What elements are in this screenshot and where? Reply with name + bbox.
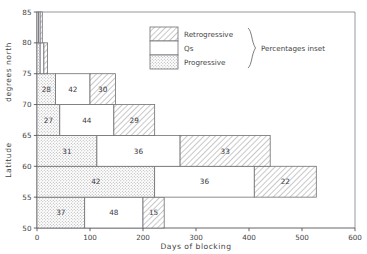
bar-value-label: 36 [200, 177, 210, 186]
x-tick-label: 300 [189, 233, 203, 242]
y-tick-label: 55 [22, 193, 31, 202]
bar-band: 313633 [37, 135, 270, 166]
y-axis-title: Latitude [4, 142, 13, 177]
legend-note: Percentages inset [261, 44, 325, 53]
x-tick-label: 100 [83, 233, 97, 242]
bar-value-label: 36 [134, 147, 144, 156]
bar-value-label: 27 [44, 116, 54, 125]
y-tick-label: 85 [22, 8, 31, 17]
bar-band: 274429 [37, 105, 155, 136]
y-axis-subtitle: degrees north [4, 42, 13, 102]
bar-value-label: 29 [130, 116, 140, 125]
chart-legend: RetrogressiveQsProgressivePercentages in… [150, 27, 325, 69]
legend-swatch [150, 41, 178, 55]
bar-value-label: 48 [109, 208, 119, 217]
bar-band: 374815 [37, 197, 164, 228]
bar-value-label: 37 [56, 208, 66, 217]
bar-value-label: 28 [42, 85, 52, 94]
y-tick-label: 75 [22, 69, 31, 78]
bar-value-label: 22 [281, 177, 290, 186]
bar-value-label: 44 [82, 116, 92, 125]
legend-swatch [150, 27, 178, 41]
y-tick-label: 70 [22, 100, 32, 109]
bar-band: 284230 [37, 74, 115, 105]
x-tick-label: 500 [295, 233, 309, 242]
bar-band [37, 12, 42, 43]
bar-value-label: 31 [62, 147, 71, 156]
legend-swatch [150, 55, 178, 69]
bar-value-label: 33 [221, 147, 231, 156]
x-tick-label: 600 [348, 233, 362, 242]
bar-segment [40, 43, 44, 74]
bar-value-label: 42 [68, 85, 77, 94]
x-tick-label: 400 [242, 233, 256, 242]
bar-band: 423622 [37, 166, 316, 197]
bar-segment [44, 43, 48, 74]
x-tick-label: 200 [136, 233, 150, 242]
bar-value-label: 42 [91, 177, 100, 186]
y-tick-label: 80 [22, 38, 32, 47]
bar-value-label: 15 [149, 208, 158, 217]
legend-label: Retrogressive [184, 30, 234, 39]
bar-band [37, 43, 48, 74]
bar-segment [37, 43, 40, 74]
y-tick-label: 60 [22, 162, 32, 171]
legend-brace [248, 28, 256, 68]
y-tick-label: 50 [22, 224, 32, 233]
x-axis-title: Days of blocking [161, 242, 232, 251]
y-tick-label: 65 [22, 131, 31, 140]
bar-segment [40, 12, 42, 43]
blocking-days-chart: 374815423622313633274429284230 010020030… [0, 0, 367, 254]
legend-label: Progressive [184, 58, 226, 67]
bar-value-label: 30 [98, 85, 108, 94]
legend-label: Qs [184, 44, 194, 53]
chart-svg: 374815423622313633274429284230 010020030… [0, 0, 367, 254]
x-tick-label: 0 [35, 233, 40, 242]
